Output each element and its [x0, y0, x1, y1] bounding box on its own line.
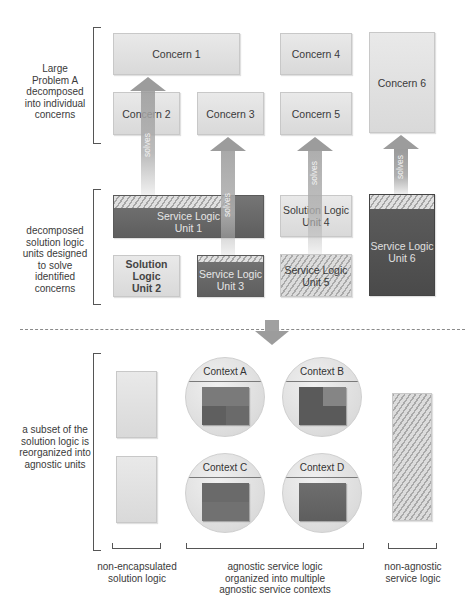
label-line: into individual — [14, 98, 96, 110]
context-divider — [188, 477, 262, 478]
service-logic-unit-5: Service LogicUnit 5 — [280, 254, 352, 297]
label-line: agnostic units — [14, 459, 96, 471]
non-encapsulated-logic-1 — [116, 371, 157, 438]
concern-5: Concern 5 — [280, 92, 352, 135]
caption-line: non-encapsulated — [86, 561, 188, 573]
label-large-problem: Large Problem A decomposed into individu… — [14, 63, 96, 121]
hatch-pattern — [114, 196, 225, 208]
hatch-pattern — [198, 256, 263, 262]
context-logic-segment — [323, 387, 346, 406]
caption-agnostic: agnostic service logic organized into mu… — [200, 561, 350, 596]
label-line: identified — [14, 271, 96, 283]
caption-line: solution logic — [86, 573, 188, 585]
non-agnostic-logic — [392, 393, 432, 521]
concern-label: Concern 4 — [292, 48, 340, 60]
label-decomposed-units: decomposed solution logic units designed… — [14, 225, 96, 294]
unit-label: Service LogicUnit 6 — [370, 240, 433, 264]
caption-line: service logic — [370, 573, 456, 585]
label-line: a subset of the — [14, 424, 96, 436]
context-title: Context B — [283, 366, 361, 377]
context-d: Context D — [282, 453, 362, 533]
concern-label: Concern 3 — [206, 108, 254, 120]
arrow-label-solves: solves — [142, 133, 152, 157]
context-a: Context A — [185, 357, 265, 437]
context-logic-block — [202, 483, 249, 521]
context-divider — [285, 381, 359, 382]
bracket-non-encapsulated — [112, 543, 161, 549]
arrow-down-icon — [255, 331, 289, 345]
context-divider — [285, 477, 359, 478]
concern-label: Concern 1 — [152, 48, 200, 60]
context-title: Context A — [186, 366, 264, 377]
unit-label: Service LogicUnit 1 — [157, 210, 220, 234]
label-line: concerns — [14, 283, 96, 295]
solution-logic-unit-2: Solution LogicUnit 2 — [113, 255, 180, 297]
unit-label: Solution LogicUnit 2 — [114, 258, 179, 294]
caption-line: agnostic service logic — [200, 561, 350, 573]
caption-non-encapsulated: non-encapsulated solution logic — [86, 561, 188, 584]
arrow-label-solves: solves — [309, 161, 319, 185]
unit-label: Service LogicUnit 3 — [199, 268, 262, 292]
label-line: Large — [14, 63, 96, 75]
concern-1: Concern 1 — [113, 33, 240, 75]
concern-4: Concern 4 — [280, 33, 352, 75]
arrow-up-icon — [130, 77, 166, 91]
transition-arrow — [258, 320, 286, 346]
label-line: decomposed — [14, 86, 96, 98]
label-line: solution logic is — [14, 436, 96, 448]
arrow-up-icon — [383, 135, 419, 149]
label-line: decomposed — [14, 225, 96, 237]
context-title: Context D — [283, 462, 361, 473]
bracket-non-agnostic — [388, 543, 437, 549]
label-line: concerns — [14, 109, 96, 121]
label-line: units designed — [14, 248, 96, 260]
context-logic-block — [299, 483, 346, 521]
service-logic-unit-1: Service LogicUnit 1 — [113, 195, 264, 238]
concern-label: Concern 5 — [292, 108, 340, 120]
context-b: Context B — [282, 357, 362, 437]
section-divider — [20, 329, 465, 330]
caption-non-agnostic: non-agnostic service logic — [370, 561, 456, 584]
label-line: Problem A — [14, 75, 96, 87]
label-subset-reorganized: a subset of the solution logic is reorga… — [14, 424, 96, 470]
unit-label: Service LogicUnit 5 — [284, 264, 347, 288]
concern-6: Concern 6 — [369, 32, 435, 133]
service-logic-unit-3: Service LogicUnit 3 — [197, 255, 264, 297]
arrow-up-icon — [210, 137, 246, 151]
service-logic-unit-6: Service LogicUnit 6 — [369, 194, 435, 296]
hatch-pattern — [370, 195, 434, 209]
context-title: Context C — [186, 462, 264, 473]
label-line: reorganized into — [14, 447, 96, 459]
label-line: solution logic — [14, 237, 96, 249]
non-encapsulated-logic-2 — [116, 456, 157, 523]
caption-line: non-agnostic — [370, 561, 456, 573]
context-logic-segment — [226, 406, 249, 425]
label-line: to solve — [14, 260, 96, 272]
concern-3: Concern 3 — [197, 92, 264, 135]
context-divider — [188, 381, 262, 382]
concern-label: Concern 6 — [378, 77, 426, 89]
bracket-agnostic-contexts — [186, 543, 364, 549]
arrow-label-solves: solves — [222, 193, 232, 217]
context-c: Context C — [185, 453, 265, 533]
caption-line: agnostic service contexts — [200, 584, 350, 596]
arrow-up-icon — [297, 137, 333, 151]
arrow-label-solves: solves — [395, 155, 405, 179]
caption-line: organized into multiple — [200, 573, 350, 585]
